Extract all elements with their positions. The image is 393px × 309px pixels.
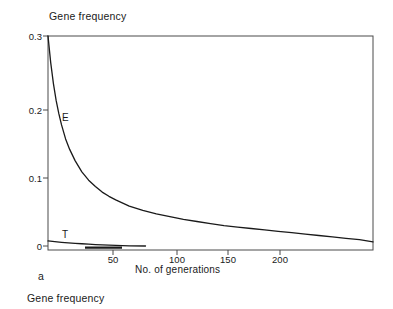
y-axis-ticks — [43, 36, 48, 246]
curve-label-E: E — [62, 112, 69, 123]
plot-area — [0, 0, 393, 309]
panel-letter: a — [38, 270, 44, 282]
x-tick-label-50: 50 — [98, 254, 128, 265]
curve-E — [48, 36, 373, 242]
plot-frame — [48, 36, 373, 250]
curve-label-T: T — [62, 229, 68, 240]
x-axis-title: No. of generations — [135, 264, 220, 275]
y-tick-label-0.2: 0.2 — [18, 105, 42, 116]
y-tick-label-0: 0 — [18, 241, 42, 252]
x-axis-ticks — [113, 250, 280, 255]
y-tick-label-0.1: 0.1 — [18, 173, 42, 184]
curve-T — [48, 241, 146, 246]
y-tick-label-0.3: 0.3 — [18, 31, 42, 42]
caption-below-figure: Gene frequency — [27, 292, 105, 304]
x-tick-label-200: 200 — [265, 254, 295, 265]
figure-container: Gene frequency 0.3 0.2 0.1 0 50 100 150 … — [0, 0, 393, 309]
